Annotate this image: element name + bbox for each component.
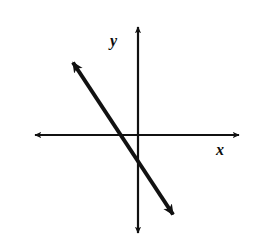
coordinate-plane-figure: y x bbox=[0, 0, 253, 250]
x-axis-label: x bbox=[216, 142, 224, 158]
y-axis-label: y bbox=[110, 33, 117, 49]
graph-canvas bbox=[0, 0, 253, 250]
plotted-line bbox=[73, 63, 173, 215]
